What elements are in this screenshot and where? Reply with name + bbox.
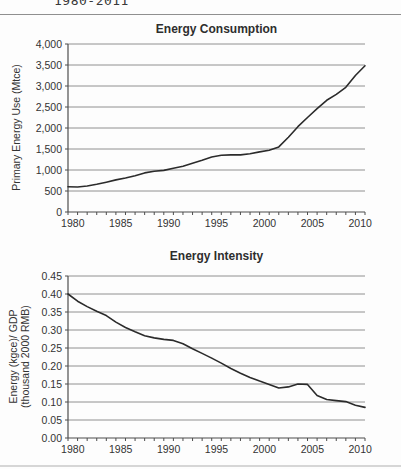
data-line	[68, 294, 365, 407]
x-tick-label: 2010	[349, 443, 373, 455]
y-tick-label: 2,000	[36, 122, 62, 134]
x-tick-label: 1990	[157, 217, 181, 229]
x-tick-label: 1980	[61, 217, 85, 229]
x-tick-label: 1985	[109, 217, 133, 229]
data-line	[68, 66, 365, 187]
y-tick-label: 0.20	[42, 360, 63, 372]
y-tick-label: 0.40	[42, 288, 63, 300]
y-tick-label: 2,500	[36, 101, 62, 113]
y-tick-label: 0.15	[42, 378, 63, 390]
figure-page: 1980-2011 Energy Consumption Primary Ene…	[0, 0, 401, 469]
y-tick-label: 1,000	[36, 164, 62, 176]
y-tick-label: 3,000	[36, 80, 62, 92]
x-tick-label: 1980	[61, 443, 85, 455]
x-tick-label: 2005	[301, 443, 325, 455]
x-tick-label: 1990	[157, 443, 181, 455]
x-tick-label: 1995	[205, 443, 229, 455]
y-tick-label: 0.25	[42, 342, 63, 354]
x-tick-label: 2000	[253, 217, 277, 229]
y-tick-label: 1,500	[36, 143, 62, 155]
y-tick-label: 3,500	[36, 59, 62, 71]
bottom-divider-line	[0, 465, 401, 467]
energy-consumption-plot: 05001,0001,5002,0002,5003,0003,5004,0001…	[36, 38, 372, 230]
y-tick-label: 0.35	[42, 306, 63, 318]
y-tick-label: 0	[56, 206, 62, 218]
x-tick-label: 1985	[109, 443, 133, 455]
y-tick-label: 0.10	[42, 396, 63, 408]
x-tick-label: 2010	[349, 217, 373, 229]
y-tick-label: 4,000	[36, 38, 62, 50]
y-tick-label: 500	[44, 185, 62, 197]
x-tick-label: 2000	[253, 443, 277, 455]
y-tick-label: 0.05	[42, 414, 63, 426]
y-tick-label: 0.45	[42, 270, 63, 282]
energy-intensity-plot: 0.000.050.100.150.200.250.300.350.400.45…	[42, 270, 372, 456]
x-tick-label: 2005	[301, 217, 325, 229]
charts-canvas: 05001,0001,5002,0002,5003,0003,5004,0001…	[0, 0, 401, 469]
y-tick-label: 0.30	[42, 324, 63, 336]
x-tick-label: 1995	[205, 217, 229, 229]
y-tick-label: 0.00	[42, 432, 63, 444]
